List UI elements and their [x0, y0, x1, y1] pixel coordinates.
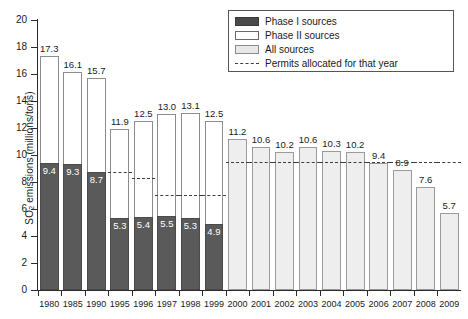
- permit-line-1995: [108, 172, 132, 173]
- bar-value-label-2009: 5.7: [436, 201, 463, 211]
- bar-all-sources-2009: [440, 213, 459, 290]
- so2-emissions-bar-chart: SO2 emissions (millions/tons) 0246810121…: [0, 0, 468, 319]
- y-tick-label: 6: [0, 204, 27, 214]
- permit-line-2006: [367, 162, 391, 163]
- bar-phase-i-1980: [40, 163, 59, 290]
- x-tick-mark: [414, 291, 415, 296]
- x-tick-mark: [296, 291, 297, 296]
- y-tick-label: 2: [0, 258, 27, 268]
- legend-item-all-sources: All sources: [235, 43, 447, 56]
- y-tick-mark: [31, 128, 37, 129]
- y-tick-mark: [31, 236, 37, 237]
- bar-all-sources-2005: [346, 152, 365, 290]
- x-tick-mark: [367, 291, 368, 296]
- y-tick-mark: [31, 290, 37, 291]
- legend-item-phase-i: Phase I sources: [235, 15, 447, 28]
- y-tick-label: 10: [0, 150, 27, 160]
- y-tick-mark: [31, 20, 37, 21]
- x-tick-mark: [38, 291, 39, 296]
- bar-value-label-1990: 15.7: [83, 66, 110, 76]
- y-tick-mark: [31, 182, 37, 183]
- x-tick-mark: [132, 291, 133, 296]
- legend-swatch-all-sources-icon: [235, 45, 259, 54]
- legend-swatch-phase-i-icon: [235, 17, 259, 26]
- y-tick-label: 18: [0, 42, 27, 52]
- x-tick-mark: [226, 291, 227, 296]
- y-tick-mark: [31, 155, 37, 156]
- bar-phase-i-1985: [63, 164, 82, 290]
- x-tick-mark: [202, 291, 203, 296]
- bar-value-label-1980: 17.3: [36, 44, 63, 54]
- y-tick-label: 8: [0, 177, 27, 187]
- x-tick-mark: [437, 291, 438, 296]
- bar-value-label-2007: 8.9: [389, 158, 416, 168]
- chart-legend: Phase I sources Phase II sources All sou…: [228, 10, 454, 72]
- permit-line-1997: [155, 195, 179, 196]
- legend-item-phase-ii: Phase II sources: [235, 29, 447, 42]
- bar-all-sources-2001: [252, 147, 271, 290]
- x-tick-mark: [343, 291, 344, 296]
- bar-value-label-2008: 7.6: [412, 175, 439, 185]
- bar-phase-i-value-label-1997: 5.5: [157, 219, 176, 229]
- y-tick-label: 4: [0, 231, 27, 241]
- y-tick-mark: [31, 101, 37, 102]
- y-tick-label: 0: [0, 285, 27, 295]
- x-tick-mark: [155, 291, 156, 296]
- x-tick-mark: [320, 291, 321, 296]
- bar-all-sources-2006: [369, 163, 388, 290]
- bar-phase-i-1990: [87, 172, 106, 290]
- x-tick-mark: [61, 291, 62, 296]
- x-tick-mark: [249, 291, 250, 296]
- permit-line-2002: [273, 162, 297, 163]
- permit-line-2003: [296, 162, 320, 163]
- legend-swatch-phase-ii-icon: [235, 31, 259, 40]
- bar-value-label-2005: 10.2: [342, 140, 369, 150]
- bar-all-sources-2007: [393, 170, 412, 290]
- legend-label-permits: Permits allocated for that year: [265, 58, 398, 69]
- y-tick-label: 14: [0, 96, 27, 106]
- legend-swatch-permits-icon: [235, 63, 259, 64]
- permit-line-2007: [390, 162, 414, 163]
- bar-phase-i-value-label-1990: 8.7: [87, 175, 106, 185]
- x-tick-mark: [108, 291, 109, 296]
- y-tick-label: 20: [0, 15, 27, 25]
- bar-all-sources-2002: [275, 152, 294, 290]
- legend-label-phase-i: Phase I sources: [265, 16, 337, 27]
- legend-label-all-sources: All sources: [265, 44, 314, 55]
- bar-all-sources-2003: [299, 147, 318, 290]
- permit-line-1996: [132, 178, 156, 179]
- permit-line-2005: [343, 162, 367, 163]
- bar-phase-i-value-label-1980: 9.4: [40, 166, 59, 176]
- legend-item-permits: Permits allocated for that year: [235, 57, 447, 70]
- legend-label-phase-ii: Phase II sources: [265, 30, 339, 41]
- x-tick-mark: [85, 291, 86, 296]
- permit-line-2000: [226, 162, 250, 163]
- bar-all-sources-2008: [416, 187, 435, 290]
- bar-phase-i-value-label-1985: 9.3: [63, 167, 82, 177]
- y-tick-mark: [31, 209, 37, 210]
- x-tick-mark: [179, 291, 180, 296]
- x-tick-mark: [273, 291, 274, 296]
- bar-phase-i-value-label-1995: 5.3: [110, 221, 129, 231]
- bar-phase-i-value-label-1998: 5.3: [181, 221, 200, 231]
- permit-line-2008: [414, 162, 438, 163]
- permit-line-2001: [249, 162, 273, 163]
- y-tick-label: 16: [0, 69, 27, 79]
- bar-all-sources-2004: [322, 151, 341, 290]
- permit-line-2004: [320, 162, 344, 163]
- permit-line-1998: [179, 195, 203, 196]
- y-tick-mark: [31, 263, 37, 264]
- bar-phase-i-value-label-1999: 4.9: [205, 227, 224, 237]
- x-tick-label-2009: 2009: [435, 299, 463, 309]
- bar-value-label-1999: 12.5: [201, 109, 228, 119]
- permit-line-2009: [437, 162, 461, 163]
- permit-line-1999: [202, 195, 226, 196]
- y-axis-line: [37, 19, 38, 291]
- x-tick-mark: [390, 291, 391, 296]
- y-tick-mark: [31, 74, 37, 75]
- y-tick-label: 12: [0, 123, 27, 133]
- bar-phase-i-value-label-1996: 5.4: [134, 220, 153, 230]
